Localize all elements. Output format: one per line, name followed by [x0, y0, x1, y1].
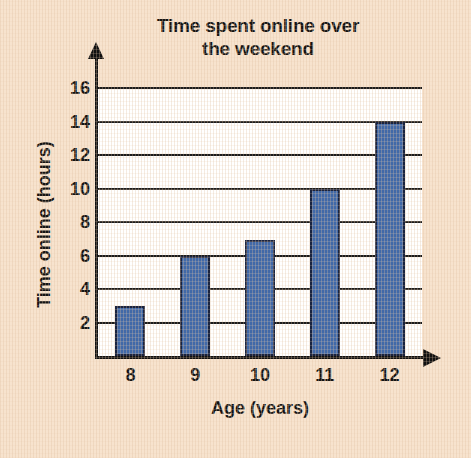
bar-age-8 [115, 306, 145, 356]
bar-chart-figure: Time spent online over the weekend 24681… [0, 0, 471, 458]
bar-age-11 [310, 189, 340, 357]
bar-age-9 [180, 256, 210, 357]
chart-title-line-1: Time spent online over [108, 14, 408, 37]
y-tick-label-10: 10 [50, 178, 90, 199]
gridline-12 [98, 154, 422, 156]
y-tick-label-16: 16 [50, 78, 90, 99]
x-axis-line [95, 356, 424, 359]
gridline-16 [98, 87, 422, 89]
y-axis-arrow-icon [88, 42, 104, 59]
x-axis-arrow-icon [423, 349, 441, 367]
y-tick-label-2: 2 [50, 312, 90, 333]
x-tick-label-8: 8 [100, 365, 160, 386]
y-tick-label-14: 14 [50, 111, 90, 132]
gridline-14 [98, 121, 422, 123]
x-tick-label-12: 12 [360, 365, 420, 386]
chart-title: Time spent online over the weekend [108, 14, 408, 60]
chart-title-line-2: the weekend [108, 37, 408, 60]
x-tick-label-11: 11 [295, 365, 355, 386]
y-tick-label-4: 4 [50, 279, 90, 300]
y-tick-label-6: 6 [50, 245, 90, 266]
plot-area [98, 88, 422, 356]
bar-age-12 [375, 122, 405, 357]
x-tick-label-9: 9 [165, 365, 225, 386]
gridline-10 [98, 188, 422, 190]
y-axis-title: Time online (hours) [34, 95, 55, 355]
bar-age-10 [245, 240, 275, 356]
y-tick-label-12: 12 [50, 145, 90, 166]
y-tick-label-8: 8 [50, 212, 90, 233]
y-axis-line [95, 55, 98, 358]
x-axis-tick-labels: 89101112 [98, 365, 422, 393]
gridline-8 [98, 221, 422, 223]
x-tick-label-10: 10 [230, 365, 290, 386]
x-axis-title: Age (years) [98, 398, 422, 419]
